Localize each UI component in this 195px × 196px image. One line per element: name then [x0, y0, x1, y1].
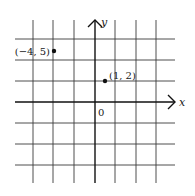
coordinate-plane: y x 0 (−4, 5) (1, 2) [0, 0, 195, 196]
point-1-2-label: (1, 2) [109, 70, 136, 81]
point-neg4-5-label: (−4, 5) [15, 46, 50, 57]
point-neg4-5 [52, 49, 56, 53]
point-1-2 [103, 79, 107, 83]
y-axis-label: y [100, 16, 108, 29]
x-axis-label: x [179, 96, 186, 109]
origin-label: 0 [98, 107, 104, 118]
